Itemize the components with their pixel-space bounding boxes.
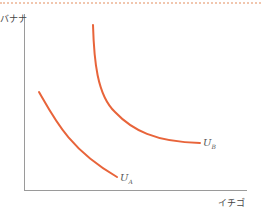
y-axis-label: バナナ: [0, 12, 27, 25]
curve-label-u-a: UA: [120, 172, 133, 185]
curve-u-b: [93, 25, 200, 143]
x-axis-label: イチゴ: [218, 196, 245, 209]
curve-u-a: [39, 92, 117, 177]
curve-label-u-b: UB: [203, 137, 216, 150]
